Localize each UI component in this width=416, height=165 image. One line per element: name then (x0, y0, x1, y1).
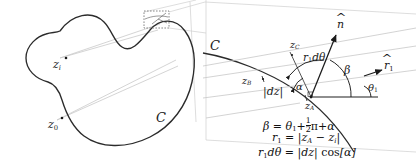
label-contour-C-detail: C (210, 39, 220, 52)
point-z-C-dot (291, 54, 293, 56)
label-z-C-sub: C (295, 44, 300, 50)
n-hat-glyph: n (337, 18, 344, 31)
label-angle-alpha: α (296, 82, 303, 92)
radius-construction-lines (57, 24, 178, 120)
point-z-i-dot (65, 57, 68, 60)
label-angle-theta1: θ1 (368, 83, 378, 94)
label-theta1-sub: 1 (374, 86, 378, 93)
label-z-B-sub: B (247, 80, 251, 86)
label-normal-n-hat: n (337, 19, 344, 30)
label-unit-vector-r1-hat: r1 (384, 60, 394, 72)
label-z-0: z0 (48, 119, 58, 131)
label-r1-dtheta: r1dθ (303, 52, 325, 64)
equation-r1: r1 = |zA − zi| (272, 132, 340, 144)
equation-r1-dtheta: r1dθ = |dz| cos[α] (258, 147, 356, 159)
magnifier-box-contents (145, 13, 168, 24)
point-z-0-dot (61, 117, 64, 120)
label-contour-C-left: C (156, 111, 166, 124)
label-dz-magnitude: |dz| (263, 86, 283, 97)
label-z-0-sub: 0 (54, 124, 58, 132)
label-z-i: zi (53, 59, 61, 71)
point-z-A-dot (310, 96, 313, 99)
label-angle-beta: β (344, 65, 350, 76)
r1-hat-sub: 1 (389, 65, 393, 73)
label-dz-inner: dz (267, 85, 280, 98)
label-z-B: zB (242, 76, 251, 87)
label-z-A: zA (305, 101, 314, 112)
label-r1-dtheta-dth: dθ (312, 51, 325, 63)
figure-canvas (0, 0, 416, 165)
label-z-i-sub: i (59, 64, 61, 72)
label-z-A-sub: A (310, 105, 314, 111)
r1-hat-glyph: r (384, 59, 389, 72)
label-z-C: zC (290, 40, 300, 51)
point-z-B-dot (262, 78, 264, 80)
